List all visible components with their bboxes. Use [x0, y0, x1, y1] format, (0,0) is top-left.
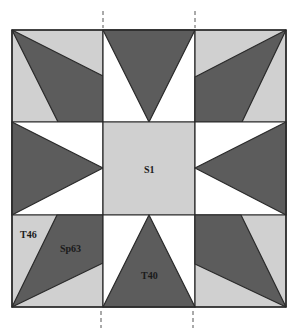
label-center-square: S1 [144, 164, 155, 175]
label-star-point: T40 [141, 270, 158, 281]
quilt-block-diagram: S1 T46 Sp63 T40 [0, 0, 297, 334]
label-corner-kite: Sp63 [60, 243, 81, 254]
label-corner-triangle: T46 [20, 229, 37, 240]
